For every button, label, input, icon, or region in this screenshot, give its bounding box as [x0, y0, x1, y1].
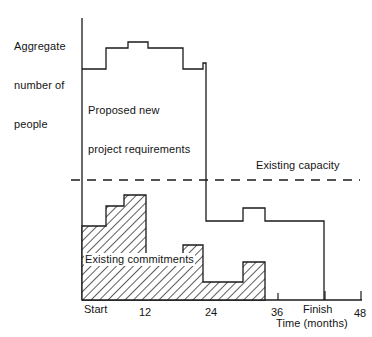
y-axis-title-line-2: number of: [14, 79, 78, 92]
x-tick-label-12: 12: [139, 306, 151, 318]
x-tick-label-finish: Finish: [303, 303, 332, 315]
chart-canvas: Aggregate number of people Proposed new …: [0, 0, 372, 337]
y-axis-title-line-1: Aggregate: [14, 40, 78, 53]
existing-commitments-area: [82, 195, 265, 300]
annotation-existing-capacity: Existing capacity: [256, 159, 340, 172]
x-axis-title: Time (months): [276, 317, 348, 330]
x-tick-label-48: 48: [354, 307, 366, 319]
x-tick-label-24: 24: [205, 306, 217, 318]
annotation-proposed-requirements: Proposed new project requirements: [88, 78, 208, 182]
y-axis-title-line-3: people: [14, 118, 78, 131]
annotation-proposed-line-1: Proposed new: [88, 104, 208, 117]
y-axis-title: Aggregate number of people: [14, 14, 78, 157]
x-tick-label-start: Start: [84, 303, 107, 315]
annotation-existing-commitments: Existing commitments: [84, 253, 195, 266]
annotation-proposed-line-2: project requirements: [88, 143, 208, 156]
